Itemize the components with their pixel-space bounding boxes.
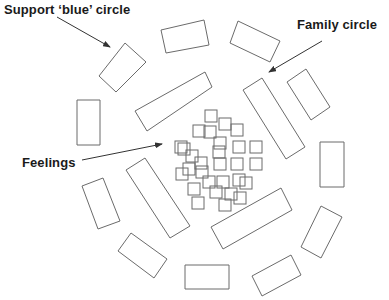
feeling-square — [225, 188, 237, 200]
family-arrow — [269, 41, 322, 72]
family-long-rect — [243, 78, 305, 159]
long-lower-left-rect — [126, 158, 190, 238]
feeling-square — [188, 183, 200, 195]
feeling-square — [213, 146, 225, 158]
feeling-square — [214, 137, 226, 149]
long-left-rect — [135, 72, 212, 131]
pointer-arrows — [57, 17, 322, 160]
support-circle-label: Support ‘blue’ circle — [4, 2, 130, 17]
top-right-rect — [230, 21, 280, 62]
feeling-square — [176, 168, 188, 180]
feeling-square — [195, 157, 207, 169]
family-circle-label: Family circle — [297, 17, 377, 32]
support-rect — [99, 43, 146, 92]
feeling-square — [192, 197, 204, 209]
circle-rectangles — [77, 20, 344, 296]
feeling-square — [233, 174, 245, 186]
support-arrow — [57, 17, 110, 47]
feeling-square — [204, 126, 216, 138]
feeling-square — [250, 141, 262, 153]
top-rect — [161, 20, 209, 53]
bottom-left-tilt-rect — [118, 233, 167, 278]
feeling-square — [219, 118, 231, 130]
lower-right-rect — [301, 206, 342, 258]
feeling-square — [234, 192, 246, 204]
feeling-square — [231, 124, 243, 136]
feeling-square — [193, 125, 205, 137]
long-bottom-rect — [211, 188, 292, 249]
left-vertical-rect — [77, 100, 100, 145]
feelings-arrow — [82, 144, 162, 160]
right-vertical-rect — [320, 142, 344, 187]
feeling-square — [250, 158, 262, 170]
feeling-square — [219, 199, 231, 211]
feeling-square — [214, 158, 226, 170]
feeling-square — [233, 141, 245, 153]
feelings-label: Feelings — [22, 155, 76, 170]
feeling-square — [183, 163, 195, 175]
feelings-squares — [175, 110, 262, 211]
feeling-square — [186, 150, 198, 162]
family-support-diagram — [0, 0, 389, 300]
bottom-right-rect — [252, 255, 301, 296]
feeling-square — [240, 177, 252, 189]
feeling-square — [205, 110, 217, 122]
left-lower-rect — [82, 178, 120, 229]
bottom-rect — [185, 265, 229, 289]
right-tilt-rect — [287, 69, 330, 120]
feeling-square — [231, 158, 243, 170]
